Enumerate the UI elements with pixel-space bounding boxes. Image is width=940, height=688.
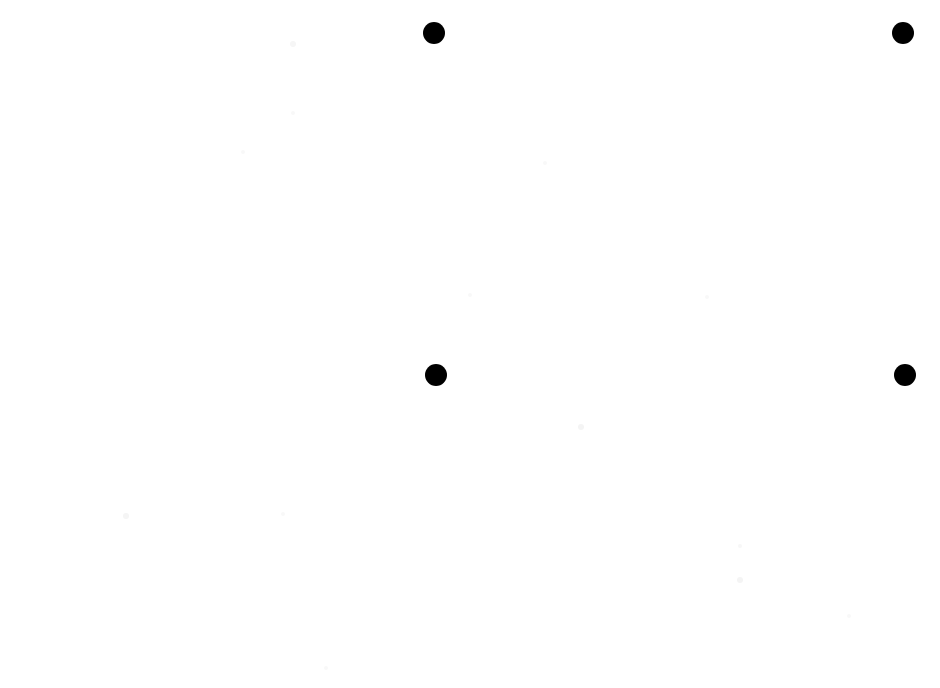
scan-speck: [738, 544, 742, 548]
scan-speck: [291, 111, 295, 115]
dot-mark-bottom-left: [425, 364, 447, 386]
scan-speck: [847, 614, 851, 618]
dot-mark-bottom-right: [894, 364, 916, 386]
scan-speck: [241, 150, 245, 154]
dot-pattern-canvas: Four Dot Pattern: [0, 0, 940, 688]
scan-speck: [543, 161, 547, 165]
scan-speck: [468, 293, 472, 297]
dot-mark-top-left: [423, 22, 445, 44]
dot-mark-top-right: [892, 22, 914, 44]
page-title: Four Dot Pattern: [0, 21, 1, 22]
scan-speck: [290, 41, 296, 47]
scan-speck: [123, 513, 129, 519]
scan-speck: [281, 512, 285, 516]
scan-speck: [324, 666, 328, 670]
scan-speck: [705, 295, 709, 299]
scan-speck: [578, 424, 584, 430]
scan-speck: [737, 577, 743, 583]
